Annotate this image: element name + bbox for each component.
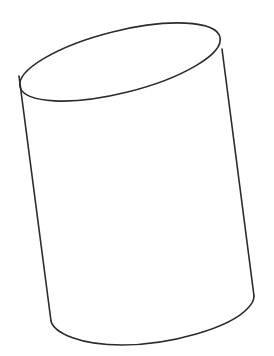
cylinder-right-edge [222, 49, 254, 296]
cylinder-left-edge [19, 76, 51, 321]
drawing-canvas [0, 0, 274, 356]
cylinder-top-ellipse [13, 7, 228, 117]
cylinder-bottom-curve [51, 296, 254, 345]
cylinder-drawing [0, 0, 274, 356]
